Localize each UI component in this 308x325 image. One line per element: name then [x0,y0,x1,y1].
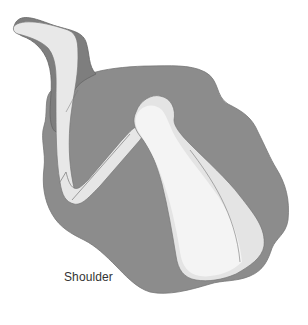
shoulder-label: Shoulder [64,270,113,284]
shoulder-diagram [0,0,308,325]
